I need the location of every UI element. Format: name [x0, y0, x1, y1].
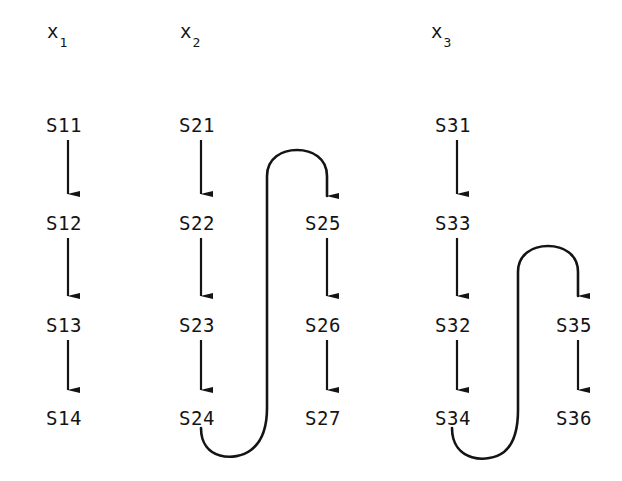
column-header-x2: x2: [180, 22, 199, 45]
node-label-s22: S22: [179, 214, 215, 233]
column-header-x2-subscript: 2: [192, 35, 200, 50]
node-label-s34: S34: [435, 409, 471, 428]
node-label-s26: S26: [305, 316, 341, 335]
node-label-s35: S35: [556, 316, 592, 335]
state-sequence-diagram: x1 x2 x3 S11: [0, 0, 622, 481]
column-header-x1-subscript: 1: [59, 35, 67, 50]
column-header-x3-subscript: 3: [443, 35, 451, 50]
node-label-s12: S12: [46, 214, 82, 233]
column-header-x1: x1: [47, 22, 66, 45]
node-label-s14: S14: [46, 409, 82, 428]
node-label-s11: S11: [46, 116, 82, 135]
node-label-s36: S36: [556, 409, 592, 428]
column-header-x2-base: x: [180, 20, 191, 42]
node-label-s25: S25: [305, 214, 341, 233]
node-label-s24: S24: [179, 409, 215, 428]
node-label-s33: S33: [435, 214, 471, 233]
column-header-x1-base: x: [47, 20, 58, 42]
node-label-s27: S27: [305, 409, 341, 428]
node-label-s23: S23: [179, 316, 215, 335]
node-label-s31: S31: [435, 116, 471, 135]
node-label-s32: S32: [435, 316, 471, 335]
column-header-x3-base: x: [431, 20, 442, 42]
node-label-s13: S13: [46, 316, 82, 335]
column-header-x3: x3: [431, 22, 450, 45]
node-label-s21: S21: [179, 116, 215, 135]
